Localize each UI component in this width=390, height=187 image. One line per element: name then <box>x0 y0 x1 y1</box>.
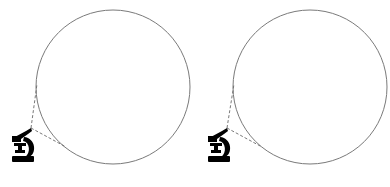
panel-right <box>208 10 387 164</box>
panel-left <box>12 10 190 164</box>
field-of-view-circle <box>233 10 387 164</box>
dashed-sight-line-upper <box>31 84 37 128</box>
field-of-view-circle <box>36 10 190 164</box>
diagram-canvas <box>0 0 390 187</box>
microscope-icon <box>12 128 34 162</box>
dashed-sight-line-upper <box>227 84 234 128</box>
dashed-sight-line-lower <box>227 128 262 147</box>
microscope-icon <box>208 128 230 162</box>
